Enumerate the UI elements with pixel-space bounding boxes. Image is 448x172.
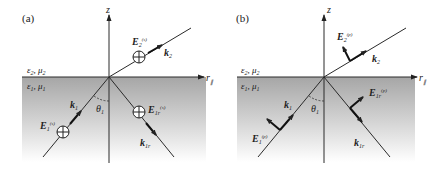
E2-out-of-plane-icon	[133, 51, 145, 63]
z-axis-label: z	[326, 4, 331, 15]
r-axis-label: r∥	[206, 72, 214, 86]
panel-a: (a) z r∥ ε2, μ2 ε1, μ1 θ1 k1 k1r k2 E1(s…	[22, 4, 214, 163]
lower-medium-region	[237, 77, 415, 162]
k2-arrow-icon	[350, 51, 366, 61]
E2-in-plane-arrow-icon	[343, 47, 350, 61]
r-axis-label: r∥	[419, 72, 427, 86]
upper-medium-label: ε2, μ2	[241, 65, 260, 76]
k2-label: k2	[164, 47, 172, 59]
k2-arrow-icon	[148, 45, 162, 53]
E2-label: E2(s)	[131, 36, 147, 48]
upper-medium-label: ε2, μ2	[27, 65, 46, 76]
E1-out-of-plane-icon	[57, 126, 69, 138]
panel-label: (a)	[22, 12, 35, 25]
panel-b: (b) z r∥ ε2, μ2 ε1, μ1 θ1 k1 k1r k2 E1(p…	[236, 4, 427, 163]
E1r-out-of-plane-icon	[133, 106, 145, 118]
k2-label: k2	[372, 53, 380, 65]
E2-label: E2(p)	[336, 31, 353, 43]
z-axis-label: z	[105, 4, 110, 15]
panel-label: (b)	[236, 12, 249, 25]
reflection-refraction-diagram: (a) z r∥ ε2, μ2 ε1, μ1 θ1 k1 k1r k2 E1(s…	[0, 0, 448, 172]
